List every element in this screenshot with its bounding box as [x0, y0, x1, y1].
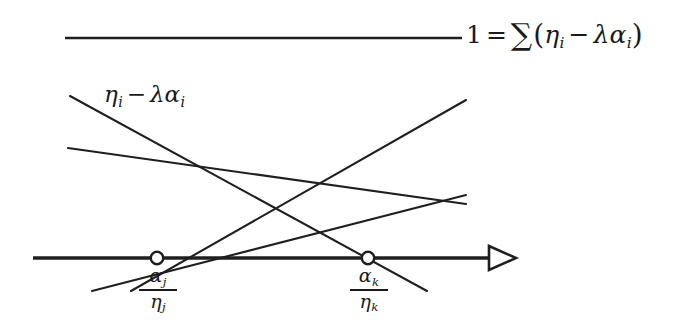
tick-k-eta-subscript: k — [371, 300, 379, 314]
equation-eta-symbol: η — [544, 20, 559, 49]
axis-marker-j — [151, 252, 163, 264]
equation-open-paren: ( — [533, 18, 544, 51]
curve-label-eta-subscript: i — [118, 94, 123, 110]
axis-arrowhead-icon — [489, 246, 516, 270]
curve-label-lambda-symbol: λ — [150, 81, 165, 107]
curve-label: ηi−λαi — [104, 83, 185, 109]
axis-tick-label-j: αj ηj — [139, 266, 177, 314]
equation-one: 1 — [466, 20, 482, 49]
equation-close-paren: ) — [632, 18, 643, 51]
axis-tick-label-j-denominator: ηj — [139, 291, 177, 314]
summation-sigma-icon: ∑ — [511, 17, 533, 52]
tick-k-eta-symbol: η — [360, 290, 371, 312]
equation-eta-subscript: i — [559, 34, 564, 52]
axis-tick-label-k-denominator: ηk — [350, 291, 388, 314]
equation-equals-sign: = — [482, 20, 511, 49]
equation-alpha-subscript: i — [626, 34, 631, 52]
axis-tick-label-k: αk ηk — [350, 266, 388, 314]
axis-tick-label-k-numerator: αk — [350, 266, 388, 289]
tick-j-alpha-subscript: j — [162, 275, 166, 289]
tick-j-alpha-symbol: α — [150, 264, 163, 286]
curve-label-eta-symbol: η — [104, 81, 118, 107]
figure-canvas: 1=∑(ηi−λαi) ηi−λαi αj ηj αk ηk — [0, 0, 678, 332]
tick-k-alpha-symbol: α — [359, 264, 372, 286]
equation-sum-identity: 1=∑(ηi−λαi) — [466, 18, 643, 51]
curve-label-alpha-symbol: α — [165, 81, 181, 107]
curve-label-alpha-subscript: i — [180, 94, 185, 110]
equation-minus-sign: − — [565, 20, 594, 49]
curve-label-minus-sign: − — [123, 81, 150, 107]
equation-alpha-symbol: α — [609, 20, 626, 49]
tick-k-alpha-subscript: k — [372, 275, 380, 289]
plot-line-d-steep-ascending — [131, 100, 466, 291]
tick-j-eta-symbol: η — [150, 290, 161, 312]
axis-tick-label-j-numerator: αj — [139, 266, 177, 289]
equation-lambda-symbol: λ — [594, 20, 610, 49]
axis-marker-k — [362, 252, 374, 264]
plot-line-b-shallow-descending — [68, 148, 466, 204]
tick-j-eta-subscript: j — [162, 300, 166, 314]
